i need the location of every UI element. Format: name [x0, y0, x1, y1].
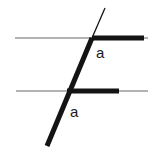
geometry-figure: a a [0, 0, 163, 160]
upper-angle-label: a [96, 44, 105, 61]
figure-canvas: a a [0, 0, 163, 160]
lower-angle-label: a [70, 103, 79, 120]
figure-background [0, 0, 163, 160]
